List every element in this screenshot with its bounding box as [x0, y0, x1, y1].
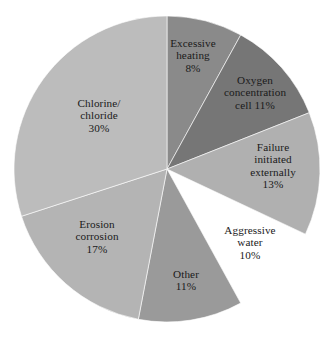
pie-chart-svg: [0, 0, 334, 338]
pie-chart: Excessive heating 8%Oxygen concentration…: [0, 0, 334, 338]
